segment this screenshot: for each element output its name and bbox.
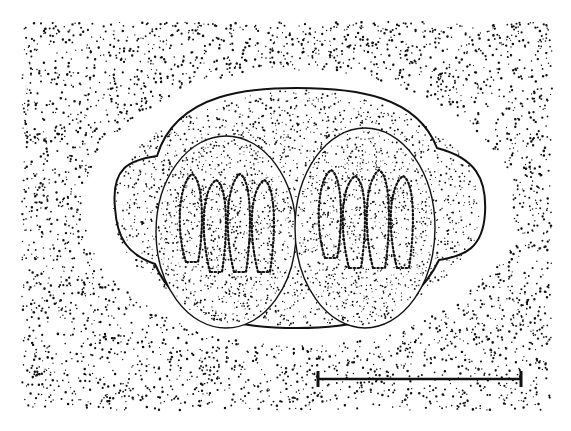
scale-bar (318, 371, 521, 387)
sporocyst-right (295, 128, 435, 328)
oocyst-illustration (0, 0, 571, 431)
sporocyst-left (156, 136, 296, 328)
